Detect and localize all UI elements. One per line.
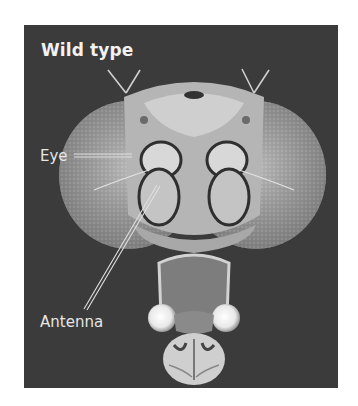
antenna-label: Antenna <box>40 313 103 331</box>
micrograph-panel: Wild type Eye Antenna <box>24 25 338 388</box>
rostrum <box>148 255 240 334</box>
labellum <box>163 333 225 385</box>
fly-head-illustration <box>24 25 338 388</box>
eye-label: Eye <box>40 147 68 165</box>
figure-title: Wild type <box>41 40 133 60</box>
antenna-left <box>139 142 181 225</box>
antenna-right <box>207 142 249 225</box>
